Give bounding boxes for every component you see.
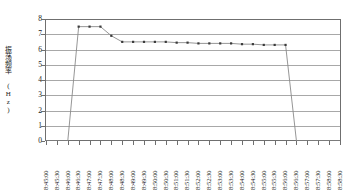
x-tick-mark — [275, 141, 276, 145]
y-tick-mark — [41, 95, 45, 96]
x-tick-label: 8:51:30 — [184, 146, 191, 190]
x-tick-label: 8:49:00 — [130, 146, 137, 190]
x-tick-label: 8:45:30 — [54, 146, 61, 190]
x-tick-mark — [318, 141, 319, 145]
x-tick-mark — [220, 141, 221, 145]
series-marker — [186, 42, 188, 44]
y-tick-label: 2 — [20, 107, 42, 115]
x-tick-label: 8:47:00 — [86, 146, 93, 190]
y-tick-label: 3 — [20, 91, 42, 99]
x-tick-mark — [198, 141, 199, 145]
y-tick-mark — [41, 50, 45, 51]
series-marker — [78, 26, 80, 28]
series-marker — [241, 43, 243, 45]
y-tick-mark — [41, 80, 45, 81]
y-tick-label: 4 — [20, 76, 42, 84]
x-tick-mark — [231, 141, 232, 145]
x-tick-mark — [144, 141, 145, 145]
x-tick-label: 8:54:30 — [250, 146, 257, 190]
x-tick-mark — [122, 141, 123, 145]
x-tick-label: 8:50:00 — [152, 146, 159, 190]
x-tick-label: 8:58:30 — [337, 146, 344, 190]
x-tick-mark — [155, 141, 156, 145]
x-tick-label: 8:57:00 — [304, 146, 311, 190]
series-marker — [121, 41, 123, 43]
series-marker — [208, 42, 210, 44]
series-marker — [110, 35, 112, 37]
x-tick-mark — [177, 141, 178, 145]
x-tick-label: 8:46:30 — [75, 146, 82, 190]
x-tick-mark — [242, 141, 243, 145]
x-tick-label: 8:57:30 — [315, 146, 322, 190]
series-marker — [263, 44, 265, 46]
x-tick-mark — [79, 141, 80, 145]
x-tick-mark — [166, 141, 167, 145]
x-tick-mark — [253, 141, 254, 145]
x-tick-label: 8:55:00 — [261, 146, 268, 190]
x-tick-mark — [57, 141, 58, 145]
x-tick-label: 8:56:30 — [293, 146, 300, 190]
x-tick-label: 8:52:30 — [206, 146, 213, 190]
x-axis-tick-labels: 8:45:008:45:308:46:008:46:308:47:008:47:… — [0, 146, 356, 192]
series-marker — [284, 44, 286, 46]
oscillation-frequency-chart: 振荡频率 (Hz) 012345678 8:45:008:45:308:46:0… — [0, 0, 356, 192]
x-tick-label: 8:55:30 — [271, 146, 278, 190]
x-tick-label: 8:56:00 — [282, 146, 289, 190]
x-tick-label: 8:52:00 — [195, 146, 202, 190]
y-tick-label: 5 — [20, 61, 42, 69]
series-marker — [154, 41, 156, 43]
x-tick-label: 8:45:00 — [43, 146, 50, 190]
x-tick-mark — [133, 141, 134, 145]
x-tick-mark — [111, 141, 112, 145]
x-tick-mark — [188, 141, 189, 145]
series-marker — [143, 41, 145, 43]
x-tick-mark — [340, 141, 341, 145]
x-tick-label: 8:54:00 — [239, 146, 246, 190]
x-tick-label: 8:46:00 — [65, 146, 72, 190]
y-tick-label: 7 — [20, 30, 42, 38]
x-tick-label: 8:51:00 — [173, 146, 180, 190]
series-marker — [132, 41, 134, 43]
x-tick-mark — [209, 141, 210, 145]
x-tick-mark — [46, 141, 47, 145]
x-tick-mark — [68, 141, 69, 145]
y-tick-mark — [41, 111, 45, 112]
y-tick-label: 6 — [20, 46, 42, 54]
y-tick-mark — [41, 19, 45, 20]
frequency-line-series — [45, 19, 341, 141]
series-marker — [274, 44, 276, 46]
x-tick-mark — [329, 141, 330, 145]
x-tick-label: 8:53:00 — [217, 146, 224, 190]
x-tick-label: 8:49:30 — [141, 146, 148, 190]
y-tick-mark — [41, 65, 45, 66]
x-tick-mark — [296, 141, 297, 145]
x-tick-mark — [264, 141, 265, 145]
x-tick-mark — [100, 141, 101, 145]
series-marker — [176, 42, 178, 44]
series-marker — [165, 41, 167, 43]
y-axis-tick-labels: 012345678 — [17, 19, 42, 141]
y-tick-label: 0 — [20, 137, 42, 145]
series-line — [46, 27, 340, 141]
y-tick-label: 8 — [20, 15, 42, 23]
x-tick-label: 8:53:30 — [228, 146, 235, 190]
y-axis-title: 振荡频率 (Hz) — [1, 28, 14, 132]
series-marker — [88, 26, 90, 28]
x-tick-mark — [286, 141, 287, 145]
y-tick-label: 1 — [20, 122, 42, 130]
y-tick-mark — [41, 126, 45, 127]
series-marker — [219, 42, 221, 44]
x-tick-label: 8:47:30 — [97, 146, 104, 190]
series-marker — [99, 26, 101, 28]
x-tick-label: 8:48:00 — [108, 146, 115, 190]
series-marker — [252, 43, 254, 45]
series-marker — [230, 42, 232, 44]
x-tick-mark — [307, 141, 308, 145]
y-tick-mark — [41, 34, 45, 35]
series-marker — [197, 42, 199, 44]
y-tick-mark — [41, 141, 45, 142]
x-tick-mark — [90, 141, 91, 145]
x-tick-label: 8:58:00 — [326, 146, 333, 190]
x-tick-label: 8:48:30 — [119, 146, 126, 190]
x-tick-label: 8:50:30 — [163, 146, 170, 190]
